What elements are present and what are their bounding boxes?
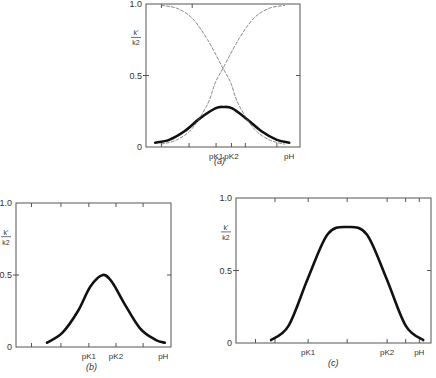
y-tick-label: 0.5 <box>219 266 232 276</box>
curve-bold <box>155 107 289 143</box>
y-tick-label: 0 <box>7 342 12 352</box>
y-tick-label: 1.0 <box>0 198 12 208</box>
curve-bold <box>271 227 423 340</box>
x-tick-label: pK2 <box>224 152 239 161</box>
y-tick-label: 1.0 <box>129 0 142 9</box>
chart-panel-b: 00.51.0k'k2pK1pK2pH <box>0 198 171 361</box>
x-tick-label: pK2 <box>380 348 395 357</box>
y-axis-label-numerator: k' <box>134 29 139 36</box>
panel-label-c: (c) <box>328 358 339 368</box>
y-axis-label-denominator: k2 <box>132 39 140 46</box>
y-tick-label: 0 <box>227 338 232 348</box>
panel-label-a: (a) <box>214 156 225 166</box>
x-tick-label: pH <box>158 352 168 361</box>
x-tick-label: pK1 <box>301 348 316 357</box>
plot-frame <box>236 198 431 343</box>
figure-canvas: 00.51.0k'k2pK1pK2pH00.51.0k'k2pK1pK2pH00… <box>0 0 436 378</box>
y-tick-label: 0.5 <box>0 270 12 280</box>
chart-panel-c: 00.51.0k'k2pK1pK2pH <box>219 193 431 357</box>
plot-frame <box>146 4 300 147</box>
x-tick-label: pH <box>284 152 294 161</box>
y-axis-label-numerator: k' <box>224 224 229 231</box>
curve-dashed <box>161 5 284 144</box>
x-tick-label: pK1 <box>82 352 97 361</box>
x-tick-label: pH <box>414 348 424 357</box>
y-axis-label-denominator: k2 <box>2 239 10 246</box>
y-axis-label-numerator: k' <box>4 229 9 236</box>
panel-label-b: (b) <box>86 362 97 372</box>
y-tick-label: 0.5 <box>129 71 142 81</box>
plot-frame <box>16 203 171 347</box>
y-tick-label: 1.0 <box>219 193 232 203</box>
y-tick-label: 0 <box>137 142 142 152</box>
y-axis-label-denominator: k2 <box>222 234 230 241</box>
chart-panel-a: 00.51.0k'k2pK1pK2pH <box>129 0 300 161</box>
curve-dashed <box>161 5 284 144</box>
x-tick-label: pK2 <box>109 352 124 361</box>
curve-bold <box>47 275 165 343</box>
